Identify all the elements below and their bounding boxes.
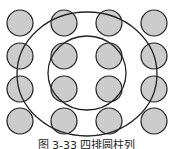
cylinder: [96, 10, 122, 36]
cylinder: [51, 108, 77, 134]
outer-ring: [17, 12, 157, 136]
cylinder: [141, 10, 167, 36]
figure-caption: 图 3-33 四排圆柱列: [0, 140, 173, 149]
cylinder: [141, 76, 167, 102]
cylinder: [51, 10, 77, 36]
cylinder: [51, 76, 77, 102]
cylinder: [141, 108, 167, 134]
cylinder: [96, 43, 122, 69]
cylinder: [96, 76, 122, 102]
inner-ring: [48, 36, 126, 110]
cylinder: [51, 43, 77, 69]
cylinder: [7, 108, 33, 134]
diagram-canvas: [0, 0, 173, 149]
cylinder-grid: [7, 10, 167, 134]
cylinder: [7, 76, 33, 102]
cylinder: [7, 10, 33, 36]
